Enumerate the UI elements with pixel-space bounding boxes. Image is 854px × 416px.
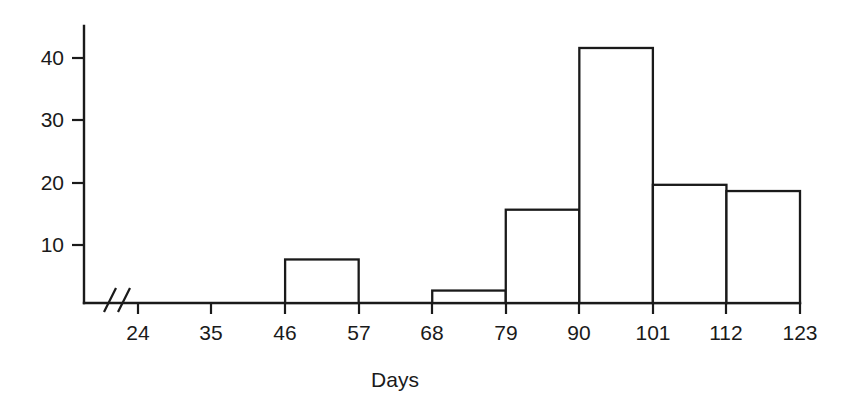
x-tick-label-68: 68 (420, 321, 443, 344)
histogram-bar (432, 291, 506, 303)
y-tick-label-30: 30 (41, 108, 64, 131)
axis-break-icon (104, 288, 130, 312)
y-tick-label-10: 10 (41, 233, 64, 256)
histogram-bar (579, 48, 653, 303)
histogram-bar (653, 185, 727, 303)
x-tick-label-90: 90 (567, 321, 590, 344)
y-tick-label-20: 20 (41, 171, 64, 194)
histogram-bar (506, 210, 580, 303)
histogram-bar (285, 259, 359, 303)
x-axis-title: Days (371, 368, 419, 391)
x-tick-label-123: 123 (782, 321, 817, 344)
x-axis-ticks (138, 303, 800, 314)
histogram-chart: 10 20 30 40 24 35 46 57 68 79 90 101 112… (0, 0, 854, 416)
x-tick-label-57: 57 (347, 321, 370, 344)
x-tick-label-101: 101 (635, 321, 670, 344)
y-axis-ticks (72, 58, 84, 245)
y-tick-label-40: 40 (41, 46, 64, 69)
histogram-plot-area: 10 20 30 40 24 35 46 57 68 79 90 101 112… (0, 0, 854, 416)
histogram-bar (726, 191, 800, 303)
x-tick-label-24: 24 (126, 321, 150, 344)
histogram-bars (285, 48, 800, 303)
x-tick-label-79: 79 (494, 321, 517, 344)
x-tick-label-112: 112 (709, 321, 742, 344)
x-tick-label-46: 46 (273, 321, 296, 344)
x-tick-label-35: 35 (199, 321, 222, 344)
